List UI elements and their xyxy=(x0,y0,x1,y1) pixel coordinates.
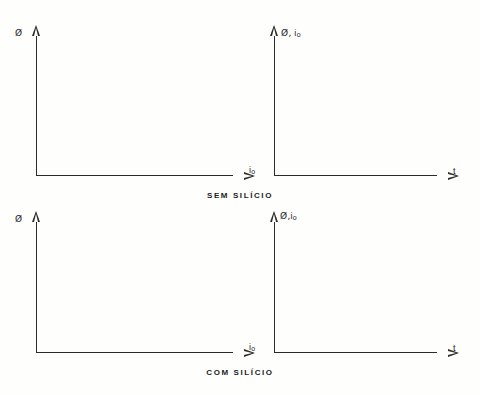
bottom-right-y-axis-arrow-icon xyxy=(270,211,278,222)
bottom-left-y-axis-label: Ø xyxy=(15,214,22,224)
top-left-y-axis-arrow-icon xyxy=(32,25,40,36)
caption-bottom: COM SILÍCIO xyxy=(0,368,480,377)
bottom-left-x-axis-label-subscript: o xyxy=(251,345,255,352)
figure-canvas: Ø io Ø, io t SEM SILÍCIO Ø io Ø,io t COM… xyxy=(0,0,480,395)
top-left-y-axis-line xyxy=(36,34,37,175)
top-right-y-axis-label-phi: Ø, xyxy=(281,28,292,38)
top-right-y-axis-arrow-icon xyxy=(270,25,278,36)
bottom-right-x-axis-line xyxy=(274,352,437,353)
bottom-right-y-axis-label-subscript: o xyxy=(293,214,297,221)
top-right-x-axis-line xyxy=(274,175,437,176)
top-left-x-axis-line xyxy=(36,175,233,176)
bottom-left-x-axis-line xyxy=(36,352,233,353)
top-left-x-axis-label: io xyxy=(249,165,256,175)
bottom-right-y-axis-label: Ø,io xyxy=(280,211,297,221)
caption-top: SEM SILÍCIO xyxy=(0,191,480,200)
top-right-x-axis-label: t xyxy=(453,166,456,176)
top-right-y-axis-label: Ø, io xyxy=(281,28,301,38)
bottom-right-y-axis-line xyxy=(274,220,275,352)
bottom-left-y-axis-arrow-icon xyxy=(32,211,40,222)
bottom-right-x-axis-label: t xyxy=(453,343,456,353)
top-left-x-axis-label-subscript: o xyxy=(251,168,255,175)
bottom-right-y-axis-label-phi: Ø, xyxy=(280,211,291,221)
top-right-y-axis-line xyxy=(274,34,275,175)
top-right-y-axis-label-subscript: o xyxy=(297,31,301,38)
top-left-y-axis-label: Ø xyxy=(15,28,22,38)
bottom-left-x-axis-label: io xyxy=(249,342,256,352)
bottom-left-y-axis-line xyxy=(36,220,37,352)
